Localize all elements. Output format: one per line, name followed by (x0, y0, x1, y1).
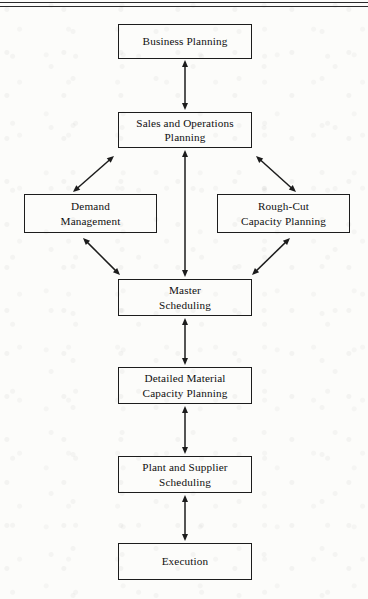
node-demand-management[interactable]: Demand Management (24, 194, 157, 233)
edge-plant-supplier-execution (182, 495, 188, 541)
edge-demand-management-master-scheduling (83, 238, 120, 275)
node-sales-and-operations-planning[interactable]: Sales and Operations Planning (118, 112, 252, 148)
edge-master-scheduling-detailed-material-head-end (182, 358, 188, 365)
node-business-planning[interactable]: Business Planning (118, 24, 252, 59)
edge-plant-supplier-execution-head-start (182, 495, 188, 502)
diagram-page: Business PlanningSales and Operations Pl… (0, 0, 368, 599)
edge-plant-supplier-execution-head-end (182, 534, 188, 541)
edge-detailed-material-plant-supplier-head-start (182, 406, 188, 413)
edge-sop-rough-cut (256, 156, 296, 192)
node-label-plant-and-supplier-scheduling: Plant and Supplier Scheduling (138, 460, 231, 489)
node-label-demand-management: Demand Management (57, 199, 125, 228)
edge-detailed-material-plant-supplier-head-end (182, 447, 188, 454)
edge-detailed-material-plant-supplier (182, 406, 188, 454)
node-execution[interactable]: Execution (118, 543, 252, 580)
node-master-scheduling[interactable]: Master Scheduling (118, 279, 252, 316)
node-label-rough-cut-capacity-planning: Rough-Cut Capacity Planning (237, 199, 330, 228)
node-label-detailed-material-capacity-planning: Detailed Material Capacity Planning (139, 371, 232, 400)
edge-business-planning-sop-head-end (182, 103, 188, 110)
edge-rough-cut-master-scheduling (252, 238, 290, 275)
node-rough-cut-capacity-planning[interactable]: Rough-Cut Capacity Planning (217, 194, 350, 233)
node-label-sales-and-operations-planning: Sales and Operations Planning (132, 116, 237, 145)
edge-rough-cut-master-scheduling-shaft (254, 240, 288, 273)
edge-master-scheduling-detailed-material-head-start (182, 318, 188, 325)
edge-sop-demand-management (73, 156, 114, 192)
node-label-execution: Execution (158, 554, 213, 569)
edge-sop-rough-cut-shaft (258, 158, 294, 190)
edge-business-planning-sop (182, 60, 188, 110)
edge-sop-master-scheduling-head-start (182, 150, 188, 157)
edge-sop-master-scheduling (182, 150, 188, 277)
edge-master-scheduling-detailed-material (182, 318, 188, 365)
node-label-business-planning: Business Planning (139, 34, 232, 49)
node-detailed-material-capacity-planning[interactable]: Detailed Material Capacity Planning (118, 367, 252, 404)
edge-sop-master-scheduling-head-end (182, 270, 188, 277)
node-label-master-scheduling: Master Scheduling (155, 283, 215, 312)
edge-sop-demand-management-shaft (75, 158, 111, 190)
edge-demand-management-master-scheduling-shaft (85, 240, 118, 273)
node-plant-and-supplier-scheduling[interactable]: Plant and Supplier Scheduling (118, 456, 252, 493)
edge-business-planning-sop-head-start (182, 60, 188, 67)
